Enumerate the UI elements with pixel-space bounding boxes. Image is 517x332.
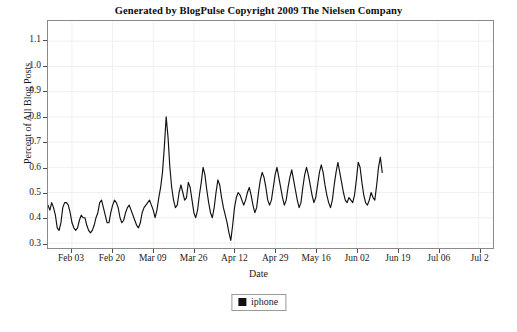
- x-axis-label: Date: [0, 268, 517, 279]
- x-tick-label: Feb 20: [99, 253, 125, 263]
- x-tick-mark: [480, 249, 481, 253]
- legend: iphone: [231, 294, 286, 311]
- x-tick-mark: [234, 249, 235, 253]
- x-tick-mark: [275, 249, 276, 253]
- x-tick-label: Jul 2: [470, 253, 488, 263]
- x-tick-mark: [357, 249, 358, 253]
- legend-label-iphone: iphone: [251, 297, 278, 307]
- y-axis-label: Percent of All Blog Posts: [22, 34, 33, 194]
- x-tick-mark: [398, 249, 399, 253]
- x-tick-label: Mar 09: [139, 253, 167, 263]
- x-tick-label: Mar 26: [180, 253, 208, 263]
- x-tick-mark: [439, 249, 440, 253]
- x-tick-label: Apr 29: [262, 253, 289, 263]
- x-tick-label: Jun 02: [344, 253, 369, 263]
- x-axis-ticks: Feb 03Feb 20Mar 09Mar 26Apr 12Apr 29May …: [0, 0, 517, 332]
- x-tick-mark: [112, 249, 113, 253]
- chart-figure: Generated by BlogPulse Copyright 2009 Th…: [0, 0, 517, 332]
- square-marker-icon: [238, 298, 246, 306]
- x-tick-label: Jun 19: [385, 253, 410, 263]
- x-tick-mark: [316, 249, 317, 253]
- x-tick-label: Jul 06: [427, 253, 450, 263]
- x-tick-mark: [194, 249, 195, 253]
- x-tick-mark: [153, 249, 154, 253]
- x-tick-label: Apr 12: [221, 253, 248, 263]
- x-tick-label: Feb 03: [58, 253, 84, 263]
- x-tick-mark: [71, 249, 72, 253]
- x-tick-label: May 16: [302, 253, 331, 263]
